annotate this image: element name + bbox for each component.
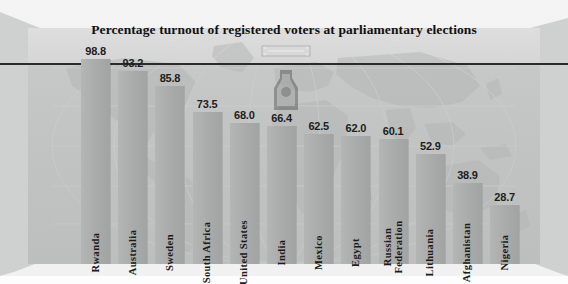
bar-series: 98.8Rwanda93.2Australia85.8Sweden73.5Sou…	[77, 28, 547, 264]
bar-value-label: 52.9	[420, 140, 441, 152]
bar[interactable]: India	[267, 126, 296, 264]
bar-slot: 38.9Afghanistan	[449, 28, 486, 264]
bar-value-label: 38.9	[457, 169, 478, 181]
bar-category-label: India	[276, 240, 287, 266]
bar-slot: 93.2Australia	[114, 28, 151, 264]
bar[interactable]: Egypt	[341, 136, 370, 265]
bar-category-label: Sweden	[164, 234, 175, 271]
bar-category-label: Afghanistan	[462, 223, 473, 282]
bar-slot: 66.4India	[263, 28, 300, 264]
bar-slot: 62.0Egypt	[337, 28, 374, 264]
bar-category-label: South Africa	[202, 222, 213, 284]
bar-value-label: 93.2	[122, 57, 143, 69]
bar[interactable]: South Africa	[193, 112, 222, 264]
bar-category-label: United States	[239, 220, 250, 284]
bar-value-label: 66.4	[271, 112, 292, 124]
bar-category-label: Russian Federation	[382, 220, 404, 273]
bar-slot: 85.8Sweden	[151, 28, 188, 264]
bar-category-label: Lithuania	[425, 229, 436, 277]
bar-slot: 98.8Rwanda	[77, 28, 114, 264]
bar[interactable]: Rwanda	[81, 59, 110, 264]
bar-value-label: 60.1	[383, 125, 404, 137]
bar-slot: 28.7Nigeria	[486, 28, 523, 264]
bar-category-label: Egypt	[350, 238, 361, 267]
bar-value-label: 68.0	[234, 109, 255, 121]
bar[interactable]: Russian Federation	[379, 139, 408, 264]
bar-category-label: Nigeria	[499, 234, 510, 270]
bar-slot: 62.5Mexico	[300, 28, 337, 264]
bar-slot: 73.5South Africa	[189, 28, 226, 264]
bar-category-label: Mexico	[313, 235, 324, 270]
bar[interactable]: Afghanistan	[453, 183, 482, 264]
bar-slot: 60.1Russian Federation	[375, 28, 412, 264]
chart-figure: Percentage turnout of registered voters …	[0, 0, 568, 284]
bar-value-label: 62.0	[346, 122, 367, 134]
bar-slot: 68.0United States	[226, 28, 263, 264]
bar-value-label: 62.5	[308, 120, 329, 132]
bar[interactable]: Australia	[118, 71, 147, 264]
bar-value-label: 73.5	[197, 98, 218, 110]
bar[interactable]: Sweden	[155, 86, 184, 264]
bar[interactable]: United States	[230, 123, 259, 264]
plot-area: 98.8Rwanda93.2Australia85.8Sweden73.5Sou…	[28, 28, 540, 264]
bar-value-label: 28.7	[494, 191, 515, 203]
bar-category-label: Rwanda	[90, 233, 101, 273]
bar[interactable]: Lithuania	[416, 154, 445, 264]
bar-category-label: Australia	[127, 230, 138, 276]
bar-slot: 52.9Lithuania	[412, 28, 449, 264]
bar[interactable]: Nigeria	[490, 205, 519, 264]
bar[interactable]: Mexico	[304, 134, 333, 264]
bar-value-label: 85.8	[160, 72, 181, 84]
bar-value-label: 98.8	[85, 45, 106, 57]
